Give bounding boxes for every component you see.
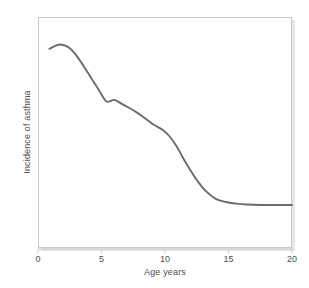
line-series-incidence-of-asthma [49, 44, 292, 205]
x-axis-tick-label: 15 [214, 253, 244, 265]
x-axis-tick-label: 20 [277, 253, 307, 265]
chart-canvas [0, 0, 309, 288]
y-axis-title: Incidence of asthma [20, 62, 34, 202]
x-axis-title: Age years [38, 266, 292, 278]
chart-figure: Incidence of asthma Age years 05101520 [0, 0, 309, 288]
x-axis-tick-label: 10 [150, 253, 180, 265]
x-axis-tick-label: 5 [87, 253, 117, 265]
x-axis-tick-label: 0 [23, 253, 53, 265]
